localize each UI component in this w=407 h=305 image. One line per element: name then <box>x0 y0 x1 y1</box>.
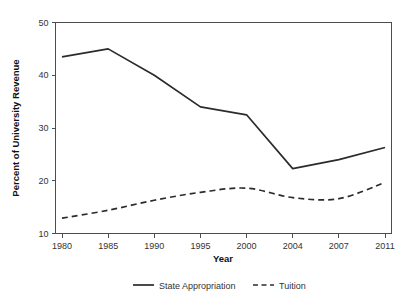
x-axis-title: Year <box>213 253 233 264</box>
x-tick-label: 2011 <box>375 241 394 251</box>
x-axis-ticks: 19801985199019952000200420072011 <box>52 234 395 251</box>
x-tick-label: 2007 <box>329 241 349 251</box>
chart-figure: 1020304050 19801985199019952000200420072… <box>0 0 407 305</box>
y-axis-ticks: 1020304050 <box>38 18 55 239</box>
y-tick-label: 10 <box>38 229 48 239</box>
chart-legend: State Appropriation Tuition <box>133 281 306 291</box>
y-tick-label: 20 <box>38 176 48 186</box>
legend-label-tuition: Tuition <box>279 281 306 291</box>
series-line-state-appropriation <box>62 49 385 169</box>
line-chart: 1020304050 19801985199019952000200420072… <box>0 0 407 305</box>
x-tick-label: 2004 <box>283 241 303 251</box>
y-tick-label: 50 <box>38 18 48 28</box>
y-tick-label: 40 <box>38 70 48 80</box>
x-tick-label: 1985 <box>98 241 118 251</box>
y-axis-title: Percent of University Revenue <box>10 59 21 196</box>
series-line-tuition <box>62 182 385 218</box>
x-tick-label: 1980 <box>52 241 72 251</box>
x-tick-label: 2000 <box>237 241 257 251</box>
x-tick-label: 1990 <box>144 241 164 251</box>
y-tick-label: 30 <box>38 123 48 133</box>
legend-label-state-appropriation: State Appropriation <box>159 281 236 291</box>
plot-frame <box>56 23 392 234</box>
x-tick-label: 1995 <box>190 241 210 251</box>
